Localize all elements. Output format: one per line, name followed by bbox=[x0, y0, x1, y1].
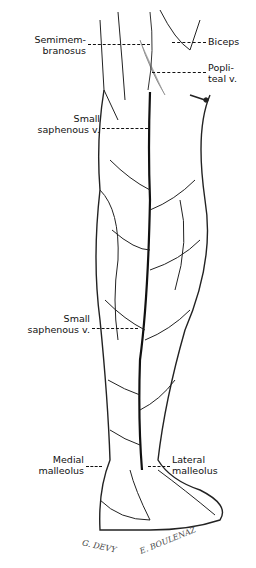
label-small-saphenous-upper: Small saphenous v. bbox=[20, 113, 100, 135]
leader-semimembranosus bbox=[88, 44, 150, 45]
label-line: saphenous v. bbox=[10, 324, 90, 335]
label-medial-malleolus: Medial malleolus bbox=[20, 454, 84, 476]
label-line: Small bbox=[20, 113, 100, 124]
label-line: teal v. bbox=[208, 73, 237, 84]
leader-popliteal-vein bbox=[152, 72, 206, 73]
label-line: malleolus bbox=[20, 465, 84, 476]
label-semimembranosus: Semimem- branosus bbox=[18, 34, 86, 56]
label-lateral-malleolus: Lateral malleolus bbox=[172, 454, 218, 476]
leg-illustration bbox=[0, 0, 256, 568]
label-biceps: Biceps bbox=[208, 36, 239, 47]
label-line: Medial bbox=[20, 454, 84, 465]
leader-lateral-malleolus bbox=[148, 466, 170, 467]
label-popliteal-vein: Popli- teal v. bbox=[208, 62, 237, 84]
leader-small-saphenous-upper bbox=[102, 128, 148, 129]
label-line: Biceps bbox=[208, 36, 239, 47]
label-line: Semimem- bbox=[18, 34, 86, 45]
label-line: branosus bbox=[18, 45, 86, 56]
leader-medial-malleolus bbox=[86, 466, 102, 467]
label-line: Popli- bbox=[208, 62, 237, 73]
leader-small-saphenous-lower bbox=[92, 328, 138, 329]
leader-biceps bbox=[172, 42, 206, 43]
label-line: malleolus bbox=[172, 465, 218, 476]
label-line: Small bbox=[10, 313, 90, 324]
label-small-saphenous-lower: Small saphenous v. bbox=[10, 313, 90, 335]
label-line: Lateral bbox=[172, 454, 218, 465]
label-line: saphenous v. bbox=[20, 124, 100, 135]
